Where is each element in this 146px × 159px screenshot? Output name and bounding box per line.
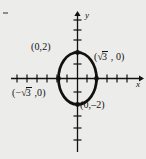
label-vertex-right-suffix: , 0) — [108, 51, 124, 62]
point-vertex-left — [56, 76, 61, 81]
label-vertex-right: (√3 , 0) — [94, 51, 124, 63]
label-vertex-left: (−√3 ,0) — [12, 87, 46, 99]
point-vertex-right — [94, 76, 99, 81]
label-vertex-left-prefix: (− — [12, 87, 21, 98]
label-vertex-left-suffix: ,0) — [32, 87, 46, 98]
x-axis-name: x — [136, 80, 140, 89]
scan-artifact-speck — [3, 12, 8, 14]
coordinate-plane — [0, 0, 146, 159]
graph-figure: y x (0,2) (√3 , 0) (−√3 ,0) (0,–2) — [0, 0, 146, 159]
y-axis-arrow-icon — [74, 11, 80, 16]
y-axis-name: y — [85, 11, 89, 20]
label-co-vertex-bottom: (0,–2) — [80, 100, 105, 110]
y-axis — [74, 11, 82, 152]
point-co-vertex-top — [75, 50, 80, 55]
label-co-vertex-top: (0,2) — [31, 42, 51, 52]
